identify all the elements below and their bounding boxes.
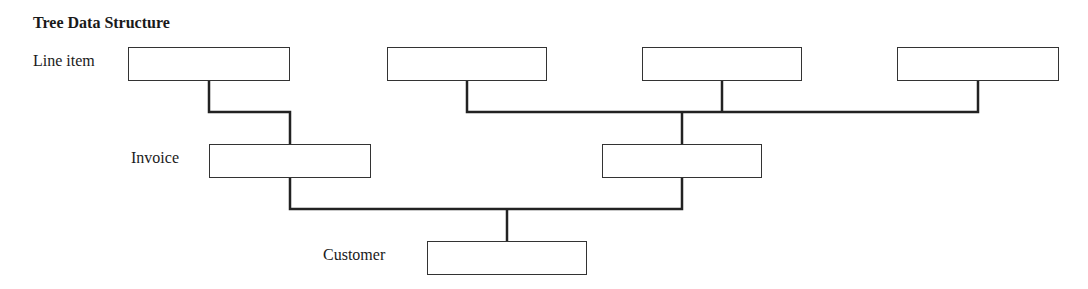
connector-invoices-bus — [290, 177, 682, 209]
invoice-node-1 — [209, 144, 371, 178]
line-item-node-3 — [642, 47, 802, 81]
line-item-node-1 — [128, 47, 290, 81]
line-item-node-2 — [387, 47, 547, 81]
connector-lineitem1-invoice1 — [209, 80, 290, 144]
line-item-node-4 — [897, 47, 1059, 81]
invoice-node-2 — [602, 144, 762, 178]
customer-node — [427, 241, 587, 275]
